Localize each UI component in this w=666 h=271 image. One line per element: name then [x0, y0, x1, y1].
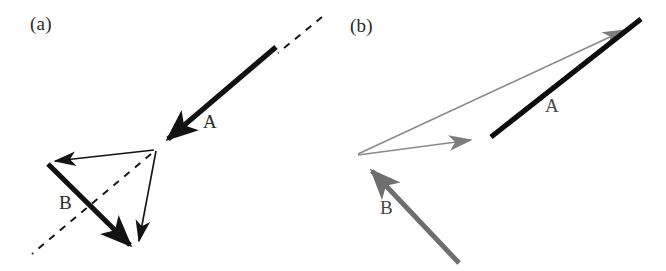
panel-a-vector-a-label: A [203, 111, 217, 133]
panel-b-label: (b) [350, 15, 373, 37]
panel-a-vector-b-label: B [59, 192, 72, 214]
panel-b-vector-b-label: B [380, 197, 393, 219]
dashed-extension-upper [278, 17, 322, 53]
panel-b-vector-a-label: A [545, 95, 559, 117]
panel-b-vector-a [491, 19, 641, 137]
panel-a-thin-arrow-down [139, 151, 156, 241]
panel-a-graphics [32, 17, 322, 254]
figure-canvas [0, 0, 666, 271]
panel-b-thin-arrow-right [358, 140, 471, 155]
panel-a-thin-arrow-left [55, 150, 154, 161]
vector-diagram-figure: (a) A B (b) A B [0, 0, 666, 271]
panel-a-label: (a) [30, 13, 52, 35]
panel-a-vector-a [168, 47, 276, 139]
panel-b-graphics [358, 19, 641, 263]
